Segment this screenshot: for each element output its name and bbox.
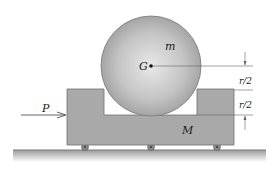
disk-mass-label: m — [165, 40, 175, 53]
arrowhead-down-icon — [244, 61, 247, 66]
dimension-label-upper: r/2 — [239, 76, 252, 86]
force-label: P — [41, 102, 50, 115]
center-of-mass-dot — [149, 64, 153, 68]
dimension-label-lower: r/2 — [239, 100, 252, 110]
cart-mass-label: M — [181, 124, 194, 137]
ground — [13, 150, 266, 162]
center-label: G — [139, 60, 148, 73]
diagram-canvas: m G M P r/2 r/2 — [0, 0, 273, 174]
arrowhead-up-icon — [244, 116, 247, 121]
